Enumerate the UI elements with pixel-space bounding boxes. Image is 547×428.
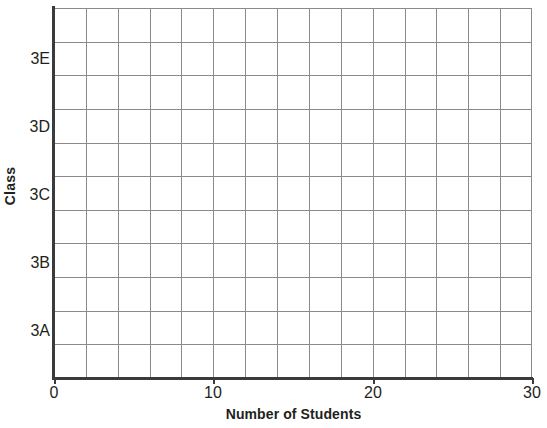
x-axis-tick-label: 30: [502, 384, 547, 402]
x-axis-tick-label: 20: [343, 384, 403, 402]
y-axis-tick-label: 3D: [6, 118, 50, 136]
y-axis-tick-label: 3A: [6, 322, 50, 340]
x-axis-tick-mark: [373, 378, 375, 384]
grid-lines: [54, 8, 532, 378]
y-axis-tick-label: 3C: [6, 186, 50, 204]
bar-chart-grid: Class 3E3D3C3B3A 0102030 Number of Stude…: [0, 0, 547, 428]
plot-area[interactable]: [54, 8, 532, 378]
y-axis-tick-label: 3B: [6, 254, 50, 272]
y-axis-tick-labels: 3E3D3C3B3A: [0, 0, 50, 428]
y-axis-line: [52, 6, 55, 380]
x-axis-tick-mark: [213, 378, 215, 384]
x-axis-title: Number of Students: [54, 406, 533, 422]
y-axis-tick-label: 3E: [6, 50, 50, 68]
x-axis-tick-mark: [532, 378, 534, 384]
x-axis-line: [52, 377, 533, 380]
x-axis-tick-label: 0: [24, 384, 84, 402]
x-axis-tick-label: 10: [183, 384, 243, 402]
x-axis-tick-mark: [54, 378, 56, 384]
